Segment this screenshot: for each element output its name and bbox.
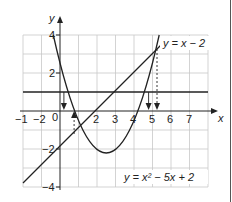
parabola-curve [53,35,159,153]
y-axis-arrow-icon [57,16,63,23]
svg-text:−4: −4 [42,181,55,193]
svg-text:0: 0 [52,111,58,123]
svg-text:2: 2 [49,67,55,79]
x-tick-labels: −1 −2 0 2 3 4 5 6 7 [15,111,192,125]
line-label: y = x − 2 [162,37,205,49]
svg-text:2: 2 [93,113,99,125]
parabola-label: y = x² − 5x + 2 [123,171,194,183]
svg-text:7: 7 [186,113,192,125]
x-axis-arrow-icon [211,108,218,114]
x-axis-label: x [217,112,224,124]
svg-text:6: 6 [167,113,173,125]
svg-text:3: 3 [112,113,118,125]
page-margin-rule [230,0,231,202]
chart: y x −1 −2 0 2 3 4 5 6 7 4 2 −2 −4 [0,0,232,202]
svg-text:5: 5 [149,113,155,125]
arrow-down-icon [61,103,67,110]
svg-text:−2: −2 [33,113,46,125]
arrow-down-icon [146,103,152,110]
arrow-down-icon [154,103,160,110]
y-axis-label: y [48,12,56,24]
svg-text:−1: −1 [15,113,28,125]
